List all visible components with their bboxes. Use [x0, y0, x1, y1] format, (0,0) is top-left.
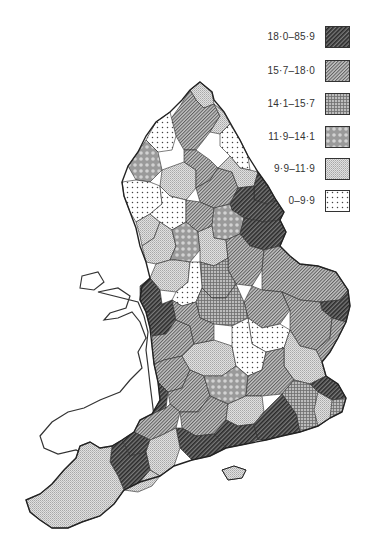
legend-item: 11·9–14·1 [240, 126, 350, 150]
legend-label: 9·9–11·9 [274, 163, 315, 174]
legend-swatch-circle-texture [325, 126, 350, 148]
anglesey-outline [80, 272, 104, 290]
legend-item: 9·9–11·9 [240, 158, 350, 182]
legend-label: 14·1–15·7 [268, 98, 315, 109]
region-cornwall [26, 442, 124, 528]
legend-item: 14·1–15·7 [240, 93, 350, 117]
legend-swatch-dots [325, 190, 350, 212]
legend-swatch-fine-hatch [325, 60, 350, 82]
legend-swatch-dense-hatch [325, 26, 350, 48]
legend-label: 0–9·9 [288, 195, 315, 206]
legend-swatch-stipple [325, 158, 350, 180]
legend-label: 18·0–85·9 [268, 31, 315, 42]
legend-item: 18·0–85·9 [240, 26, 350, 50]
isle-of-wight [222, 466, 246, 480]
legend-label: 15·7–18·0 [268, 65, 315, 76]
legend-item: 15·7–18·0 [240, 60, 350, 84]
legend-item: 0–9·9 [240, 190, 350, 214]
legend-label: 11·9–14·1 [268, 131, 315, 142]
legend-swatch-cross-hatch [325, 93, 350, 115]
